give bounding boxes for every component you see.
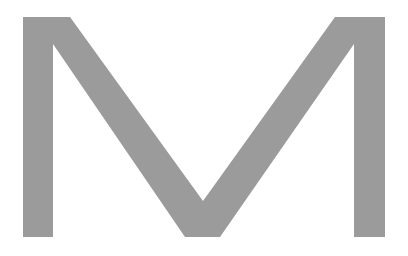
letter-m-glyph (0, 0, 408, 256)
canvas: M (0, 0, 408, 256)
letter-m-shape (23, 17, 385, 237)
